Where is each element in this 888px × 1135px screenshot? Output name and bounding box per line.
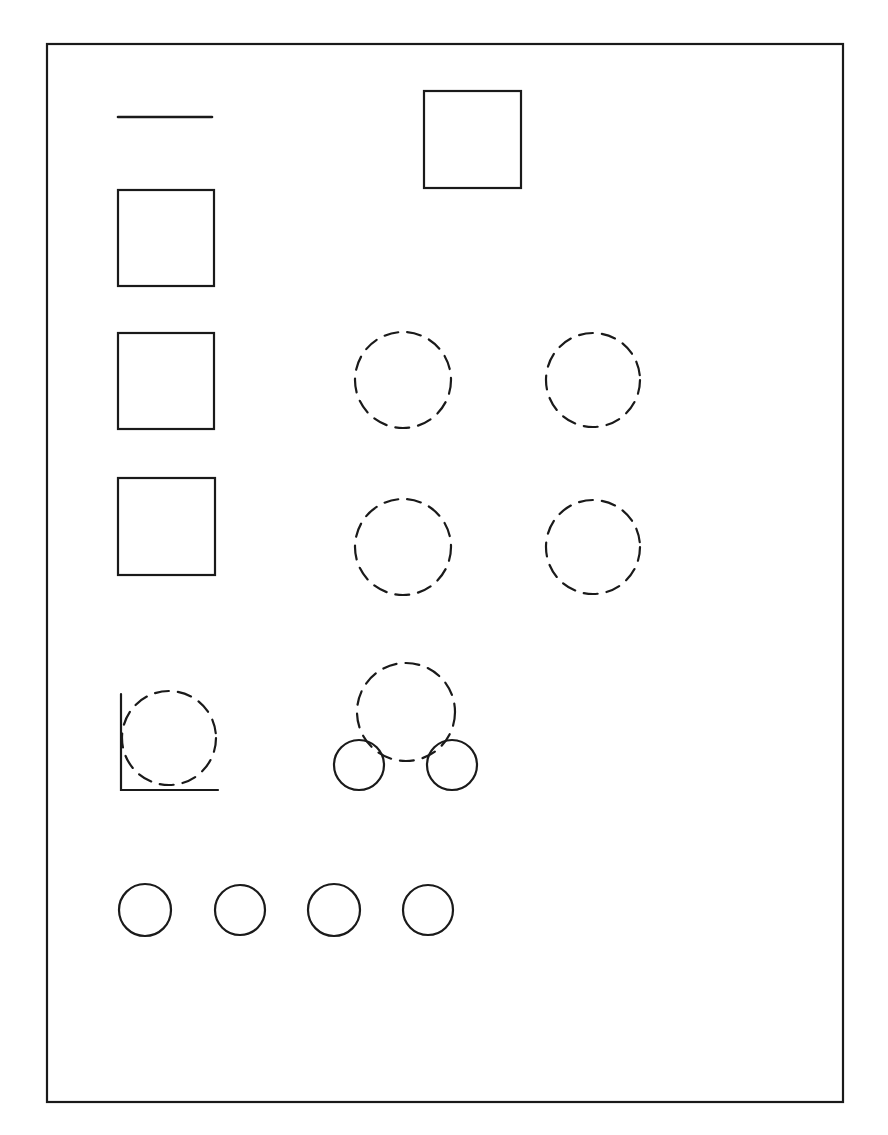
bottom-circle-1 — [119, 884, 171, 936]
small-circle-cluster-left — [334, 740, 384, 790]
outer-border — [47, 44, 843, 1102]
square-left-3 — [118, 478, 215, 575]
dashed-circle-r2-c1 — [355, 499, 451, 595]
small-circle-cluster-right — [427, 740, 477, 790]
shape-layer — [118, 91, 640, 936]
square-top-right — [424, 91, 521, 188]
bottom-circle-2 — [215, 885, 265, 935]
figure-canvas: Geometric Shapes Sketch Hand-drawn style… — [0, 0, 888, 1135]
dashed-circle-r1-c1 — [355, 332, 451, 428]
square-left-1 — [118, 190, 214, 286]
dashed-circle-over-bracket — [122, 691, 216, 785]
dashed-circle-r1-c2 — [546, 333, 640, 427]
bottom-circle-4 — [403, 885, 453, 935]
corner-bracket — [121, 694, 218, 790]
dashed-circle-r2-c2 — [546, 500, 640, 594]
square-left-2 — [118, 333, 214, 429]
figure-svg — [0, 0, 888, 1135]
dashed-circle-cluster — [357, 663, 455, 761]
bottom-circle-3 — [308, 884, 360, 936]
